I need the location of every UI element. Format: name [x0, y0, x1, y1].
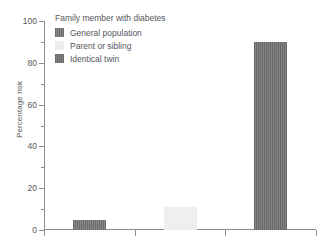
- legend-swatch-icon: [55, 41, 64, 50]
- y-axis-title: Percentage risk: [15, 50, 24, 170]
- bar-identical-twin: [254, 42, 287, 230]
- legend-item: General population: [55, 26, 225, 39]
- y-tick-label: 60: [28, 100, 37, 110]
- legend-item-label: Identical twin: [70, 54, 119, 64]
- bar-parent-or-sibling: [164, 207, 197, 230]
- bar-general-population: [73, 220, 106, 230]
- y-tick-label: 80: [28, 58, 37, 68]
- y-tick-label: 100: [23, 16, 37, 26]
- y-tick-label: 20: [28, 183, 37, 193]
- x-tick: [135, 230, 136, 236]
- legend-title: Family member with diabetes: [55, 13, 225, 23]
- x-tick: [44, 230, 45, 236]
- legend-swatch-icon: [55, 28, 64, 37]
- bar-chart: Percentage risk 020406080100 Family memb…: [0, 0, 328, 249]
- legend-item-list: General populationParent or siblingIdent…: [55, 26, 225, 65]
- y-tick-label: 0: [32, 225, 37, 235]
- x-tick: [225, 230, 226, 236]
- x-tick: [316, 230, 317, 236]
- y-tick-label: 40: [28, 141, 37, 151]
- chart-legend: Family member with diabetes General popu…: [55, 13, 225, 65]
- legend-item: Identical twin: [55, 52, 225, 65]
- legend-item-label: Parent or sibling: [70, 41, 131, 51]
- legend-swatch-icon: [55, 54, 64, 63]
- legend-item: Parent or sibling: [55, 39, 225, 52]
- legend-item-label: General population: [70, 28, 142, 38]
